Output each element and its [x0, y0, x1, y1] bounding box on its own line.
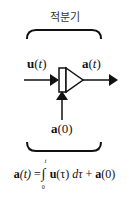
output-arrowhead [109, 74, 118, 86]
top-brace [27, 30, 101, 39]
output-label: a(t) [82, 56, 101, 72]
integral-formula: a(t) =∫t0 u(τ) dτ + a(0) [0, 166, 129, 182]
integral-sign: ∫t0 [42, 166, 46, 182]
input-label: u(t) [27, 56, 47, 72]
input-arrowhead [50, 74, 59, 86]
integrator-rect [59, 68, 66, 92]
integrator-triangle [66, 68, 83, 92]
bottom-brace [27, 142, 101, 151]
initial-condition-label: a(0) [51, 121, 73, 137]
